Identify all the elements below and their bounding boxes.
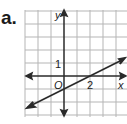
plotted-line [27,58,125,108]
coordinate-graph: y x O 2 1 [0,0,127,124]
origin-label: O [54,79,63,91]
x-axis [26,73,126,79]
x-tick-label-2: 2 [87,79,93,91]
y-tick-label-1: 1 [55,58,61,70]
x-axis-left-arrow-icon [26,73,32,79]
x-axis-label: x [117,79,124,91]
